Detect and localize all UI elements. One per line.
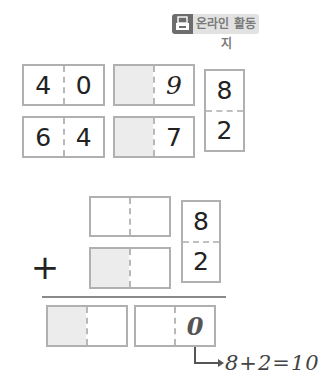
arrow-right-icon — [218, 359, 224, 367]
ones-cell: 7 — [153, 118, 193, 156]
decomposition-box-top: 8 2 — [204, 69, 245, 152]
tens-cell: 6 — [24, 118, 63, 156]
split-top-cell: 8 — [206, 71, 243, 110]
split-top-cell: 8 — [183, 202, 219, 241]
number-box-7: 7 — [113, 116, 195, 158]
addend1-box[interactable] — [89, 196, 171, 237]
decomposition-box-bottom: 8 2 — [181, 200, 221, 283]
ones-cell: 0 — [63, 66, 104, 104]
result-box-hundreds-tens[interactable] — [46, 305, 128, 347]
sum-line — [42, 296, 226, 298]
number-box-64: 6 4 — [22, 116, 105, 158]
hundreds-cell-shaded — [48, 307, 86, 345]
plus-sign: + — [30, 249, 60, 285]
addend2-box[interactable] — [89, 247, 171, 289]
arrow-line-vertical — [194, 347, 196, 363]
number-box-40: 4 0 — [22, 64, 105, 106]
tens-cell: 4 — [24, 66, 63, 104]
ones-cell: 9 — [153, 66, 193, 104]
tens-cell-shaded — [115, 118, 153, 156]
online-activity-label[interactable]: 온라인 활동지 — [193, 14, 259, 34]
split-bottom-cell: 2 — [206, 110, 243, 151]
printer-icon — [175, 16, 190, 32]
result-box-ones[interactable]: 0 — [134, 305, 216, 347]
ones-cell-handwritten: 0 — [174, 307, 214, 345]
ones-cell[interactable] — [129, 198, 169, 235]
number-box-9: 9 — [113, 64, 195, 106]
ones-cell: 4 — [63, 118, 104, 156]
printer-icon-badge[interactable] — [172, 14, 193, 34]
tens-cell-shaded — [115, 66, 153, 104]
tens-cell[interactable] — [86, 307, 126, 345]
tens-cell[interactable] — [136, 307, 174, 345]
tens-cell[interactable] — [91, 198, 129, 235]
tens-cell-shaded — [91, 249, 129, 287]
split-bottom-cell: 2 — [183, 241, 219, 282]
arrow-line-horizontal — [194, 362, 220, 364]
ones-cell[interactable] — [129, 249, 169, 287]
annotation-equation: 8+2=10 — [225, 350, 324, 376]
